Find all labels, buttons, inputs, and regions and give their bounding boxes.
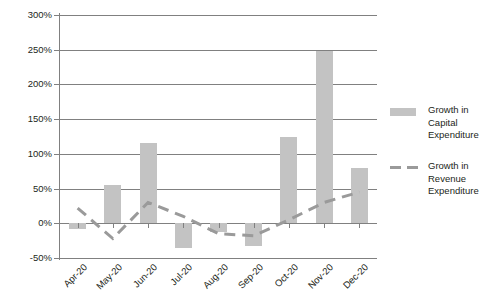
x-axis-tick: [78, 223, 79, 228]
x-axis-tick: [359, 223, 360, 228]
x-axis-tick: [183, 223, 184, 228]
x-axis-tick: [148, 223, 149, 228]
x-axis-tick-label: Jun-20: [121, 262, 159, 300]
y-axis-tick: [54, 223, 60, 224]
x-axis-tick: [219, 223, 220, 228]
y-axis-tick: [54, 119, 60, 120]
x-axis-tick-label: May-20: [86, 262, 124, 300]
legend-label-capital-expenditure: Growth in Capital Expenditure: [428, 104, 489, 142]
y-axis-tick-label: -50%: [0, 253, 52, 263]
legend-item-capital-expenditure: Growth in Capital Expenditure: [390, 104, 489, 142]
x-axis-tick-label: Oct-20: [262, 262, 300, 300]
x-axis-tick-label: Sep-20: [227, 262, 265, 300]
legend-item-revenue-expenditure: Growth in Revenue Expenditure: [390, 160, 489, 198]
legend-label-revenue-expenditure: Growth in Revenue Expenditure: [428, 160, 489, 198]
y-axis-tick-label: 150%: [0, 114, 52, 124]
y-axis-tick-label: 100%: [0, 149, 52, 159]
x-axis-tick: [254, 223, 255, 228]
x-axis-tick: [324, 223, 325, 228]
y-axis-tick: [54, 50, 60, 51]
bar-swatch-icon: [390, 108, 416, 116]
y-axis-tick: [54, 84, 60, 85]
y-axis-tick-label: 250%: [0, 45, 52, 55]
y-axis-tick: [54, 189, 60, 190]
y-axis-tick-label: 0%: [0, 219, 52, 229]
plot-area: [60, 15, 377, 258]
chart-legend: Growth in Capital Expenditure Growth in …: [390, 104, 489, 216]
y-axis-tick-label: 300%: [0, 10, 52, 20]
x-axis-tick: [289, 223, 290, 228]
y-axis-tick: [54, 15, 60, 16]
y-axis-tick: [54, 154, 60, 155]
y-axis-tick-label: 50%: [0, 184, 52, 194]
x-axis-tick-label: Nov-20: [297, 262, 335, 300]
x-axis-tick-label: Apr-20: [50, 262, 88, 300]
revenue-expenditure-polyline: [78, 192, 360, 239]
x-axis-tick-label: Aug-20: [191, 262, 229, 300]
y-axis-tick-label: 200%: [0, 80, 52, 90]
dashed-line-swatch-icon: [390, 166, 420, 169]
line-series-revenue-expenditure: [60, 15, 377, 258]
x-axis-line: [60, 258, 377, 259]
x-axis-tick-label: Dec-20: [332, 262, 370, 300]
y-axis-labels: 300%250%200%150%100%50%0%-50%: [0, 15, 52, 258]
chart-container: 300%250%200%150%100%50%0%-50% Apr-20May-…: [0, 0, 489, 303]
x-axis-tick: [113, 223, 114, 228]
x-axis-tick-label: Jul-20: [156, 262, 194, 300]
